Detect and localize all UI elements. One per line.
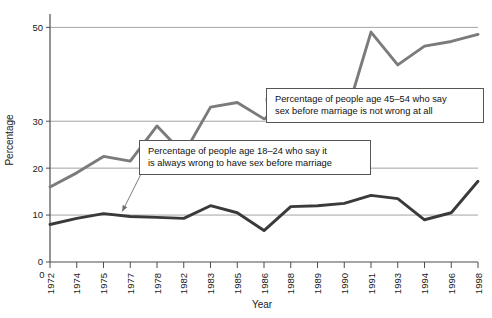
- y-tick-label: 30: [32, 116, 43, 127]
- x-axis-tick-labels: 1972197419751977197819821983198519861988…: [45, 273, 484, 294]
- y-tick-label: 20: [32, 163, 43, 174]
- x-axis-origin-label: 0: [39, 269, 44, 280]
- series-line-age-18-24-always-wrong: [50, 181, 478, 230]
- annotation-line-2: sex before marriage is not wrong at all: [275, 105, 476, 117]
- chart-container: 010203050 197219741975197719781982198319…: [0, 0, 492, 318]
- y-axis-tick-labels: 010203050: [32, 22, 43, 268]
- x-tick-label: 1985: [232, 273, 243, 294]
- x-tick-label: 1972: [45, 273, 56, 294]
- x-tick-label: 1977: [125, 273, 136, 294]
- x-tick-label: 1974: [71, 273, 82, 294]
- data-series: [50, 32, 478, 230]
- x-tick-label: 1994: [419, 273, 430, 294]
- x-tick-label: 1993: [392, 273, 403, 294]
- x-tick-label: 1978: [152, 273, 163, 294]
- y-axis-title: Percentage: [4, 114, 15, 166]
- x-tick-label: 1988: [285, 273, 296, 294]
- annotation-line-1: Percentage of people age 18–24 who say i…: [148, 145, 363, 157]
- x-axis-title: Year: [252, 299, 273, 310]
- y-tick-label: 50: [32, 22, 43, 33]
- x-tick-label: 1975: [98, 273, 109, 294]
- annotation-line-2: is always wrong to have sex before marri…: [148, 157, 363, 169]
- x-tick-label: 1990: [339, 273, 350, 294]
- x-axis-ticks: [50, 262, 478, 268]
- annotation-callout-age-18-24: Percentage of people age 18–24 who say i…: [139, 140, 371, 175]
- annotation-line-1: Percentage of people age 45–54 who say: [275, 93, 476, 105]
- x-tick-label: 1982: [178, 273, 189, 294]
- x-tick-label: 1986: [259, 273, 270, 294]
- axes: [46, 14, 478, 262]
- x-tick-label: 1998: [473, 273, 484, 294]
- annotation-callout-age-45-54: Percentage of people age 45–54 who say s…: [266, 88, 484, 123]
- y-tick-label: 10: [32, 209, 43, 220]
- leader-line-age-18-24: [122, 172, 142, 211]
- x-tick-label: 1991: [366, 273, 377, 294]
- y-tick-label: 0: [38, 256, 43, 267]
- x-tick-label: 1989: [312, 273, 323, 294]
- x-tick-label: 1996: [446, 273, 457, 294]
- x-tick-label: 1983: [205, 273, 216, 294]
